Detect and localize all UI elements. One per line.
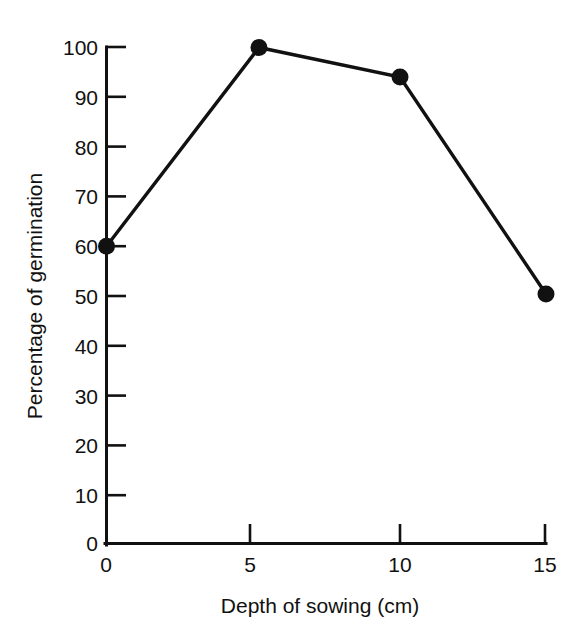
y-tick-label-10: 10 [75, 484, 98, 507]
y-tick-label-70: 70 [75, 185, 98, 208]
y-tick-label-30: 30 [75, 385, 98, 408]
data-point-15cm [538, 286, 555, 303]
y-axis-title: Percentage of germination [23, 173, 46, 419]
y-tick-label-40: 40 [75, 335, 98, 358]
x-tick-label-15: 15 [533, 553, 556, 576]
x-axis-title: Depth of sowing (cm) [221, 594, 419, 617]
x-tick-label-10: 10 [388, 553, 411, 576]
y-tick-label-100: 100 [63, 36, 98, 59]
y-tick-label-0: 0 [86, 532, 98, 555]
x-tick-label-5: 5 [244, 553, 256, 576]
y-tick-label-80: 80 [75, 136, 98, 159]
y-tick-label-60: 60 [75, 235, 98, 258]
data-point-10cm [392, 69, 409, 86]
y-tick-label-90: 90 [75, 86, 98, 109]
germination-vs-depth-line-chart: 100 90 80 70 60 50 40 30 20 10 0 0 5 10 … [0, 0, 584, 639]
y-tick-label-50: 50 [75, 285, 98, 308]
chart-figure: 100 90 80 70 60 50 40 30 20 10 0 0 5 10 … [0, 0, 584, 639]
y-tick-label-20: 20 [75, 434, 98, 457]
x-tick-label-0: 0 [100, 553, 112, 576]
data-point-0cm [98, 238, 115, 255]
data-point-5cm [251, 39, 268, 56]
